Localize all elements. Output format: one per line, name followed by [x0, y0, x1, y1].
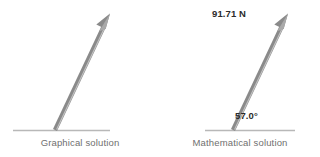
force-vector	[55, 14, 110, 131]
vector-magnitude-label: 91.71 N	[212, 8, 246, 19]
panel-mathematical-caption: Mathematical solution	[160, 136, 320, 149]
vector-shaft-highlight	[57, 27, 105, 130]
vector-shaft	[55, 27, 104, 130]
force-vector-figure: Graphical solution 91.71 N 57.0° Mathema…	[0, 0, 320, 157]
panel-graphical-caption: Graphical solution	[0, 136, 160, 149]
vector-angle-label: 57.0°	[235, 110, 258, 121]
graphical-solution-diagram	[0, 0, 160, 135]
panel-graphical-solution: Graphical solution	[0, 0, 160, 157]
panel-mathematical-solution: 91.71 N 57.0° Mathematical solution	[160, 0, 320, 157]
